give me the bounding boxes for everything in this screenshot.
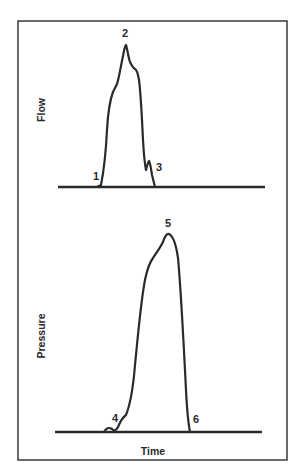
point-1-label: 1: [93, 170, 99, 182]
flow-pressure-diagram: Flow 1 2 3 Pressure 4 5 6 Time: [0, 0, 300, 473]
flow-axis-label: Flow: [35, 97, 47, 122]
point-4-label: 4: [112, 412, 119, 424]
point-3-label: 3: [156, 161, 162, 173]
pressure-axis-label: Pressure: [35, 313, 47, 358]
pressure-panel: Pressure 4 5 6 Time: [35, 217, 262, 457]
pressure-curve: [104, 234, 190, 432]
point-6-label: 6: [193, 413, 199, 425]
figure-frame: [18, 21, 287, 460]
flow-curve: [97, 45, 155, 187]
point-5-label: 5: [165, 217, 171, 229]
point-2-label: 2: [122, 27, 128, 39]
time-axis-label: Time: [141, 445, 165, 457]
flow-panel: Flow 1 2 3: [35, 27, 265, 187]
